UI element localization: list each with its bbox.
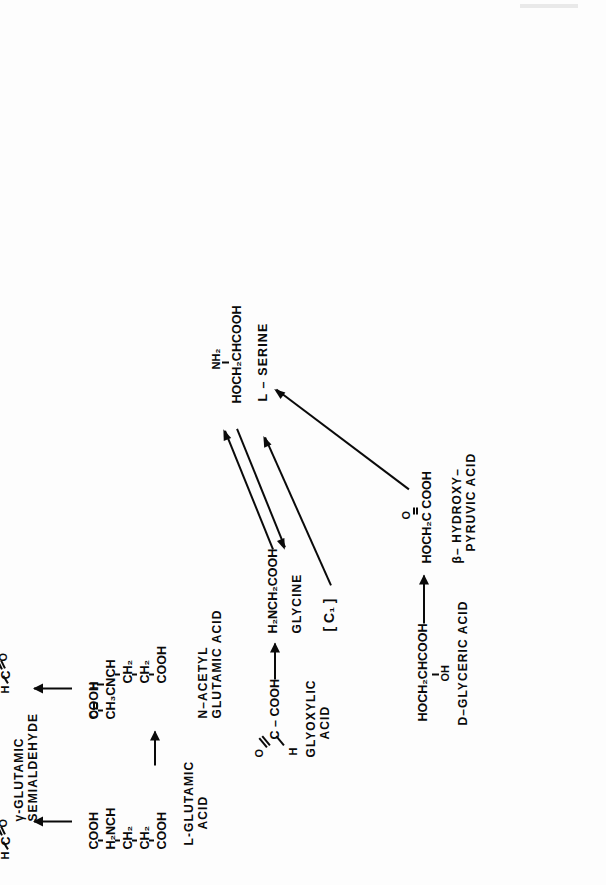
hydroxypyruvate-co-bond-b <box>416 507 418 514</box>
hydroxypyruvate-co-bond-a <box>413 507 415 514</box>
arrow-serine-to-glycine <box>236 428 286 547</box>
arrow-glu-to-nacetylglu <box>154 731 156 765</box>
label-l-glutamic-acid: L-GLUTAMIC <box>182 760 196 845</box>
label-l-serine: L – SERINE <box>256 322 270 401</box>
label-l-glutamic-acid-line2: ACID <box>196 795 210 829</box>
arrow-glycerate-to-hydroxypyruvate <box>423 575 425 623</box>
glyoxylic-core: C – COOH <box>268 679 283 739</box>
glyceric-hydroxyl: OH <box>438 665 453 682</box>
arrow-hydroxypyruvate-to-serine <box>276 388 410 489</box>
pathway-canvas: COOH H₂NCH CH₂ CH₂ COOH L-GLUTAMIC ACID … <box>0 0 606 885</box>
serine-nh2-bond <box>222 361 229 363</box>
glu-line-4: COOH <box>154 812 171 850</box>
hydroxypyruvate-keto-o: O <box>399 510 414 519</box>
arrow-glyoxylate-to-glycine <box>274 643 276 679</box>
glu-line-2: CH₂ <box>120 825 137 849</box>
label-beta-hydroxypyruvic-acid-line2: PYRUVIC ACID <box>464 452 478 551</box>
nacglu-double-bond-lower <box>96 702 98 709</box>
structure-l-glutamic-acid: COOH H₂NCH CH₂ CH₂ COOH <box>86 807 171 849</box>
glu-line-1: H₂NCH <box>103 807 120 849</box>
label-n-acetyl-glutamic-acid-line2: GLUTAMIC ACID <box>210 609 224 718</box>
gsa-aldehyde-h: H <box>0 851 13 859</box>
label-d-glyceric-acid: D–GLYCERIC ACID <box>456 600 470 725</box>
arrow-nacetylglu-to-nacetylsemialdehyde <box>34 687 72 689</box>
nacglu-line-2: CH₂ <box>120 659 137 683</box>
nacglu-nh-bond <box>97 683 104 685</box>
glu-line-3: CH₂ <box>137 825 154 849</box>
glyoxylic-o: O <box>252 748 267 757</box>
nacglu-double-bond-upper <box>93 702 95 709</box>
label-gamma-glutamic-semialdehyde: γ-GLUTAMIC <box>12 737 26 821</box>
one-carbon-pool-label: [ C₁ ] <box>322 598 337 631</box>
label-beta-hydroxypyruvic-acid: β– HYDROXY– <box>450 468 464 563</box>
nacglu-line-1: CH₃CNCH <box>103 659 120 719</box>
figure-page: COOH H₂NCH CH₂ CH₂ COOH L-GLUTAMIC ACID … <box>0 0 606 885</box>
glyceric-formula: HOCH₂CHCOOH <box>416 623 431 721</box>
scan-artifact <box>520 4 578 8</box>
nacglu-line-4: COOH <box>154 646 171 684</box>
label-glyoxylic-acid-line2: ACID <box>318 705 332 739</box>
label-gamma-glutamic-semialdehyde-line2: SEMIALDEHYDE <box>26 712 40 821</box>
label-glyoxylic-acid: GLYOXYLIC <box>304 679 318 757</box>
nacsa-aldehyde-h: H <box>0 685 13 693</box>
glu-line-0: COOH <box>86 812 103 850</box>
serine-formula: HOCH₂CHCOOH <box>230 305 245 403</box>
nacglu-carbonyl-o: O <box>87 709 102 718</box>
structure-glycine: H₂NCH₂COOH <box>266 548 281 633</box>
hydroxypyruvate-formula: HOCH₂C COOH <box>420 471 435 563</box>
nacglu-line-3: CH₂ <box>137 659 154 683</box>
label-n-acetyl-glutamic-acid: N–ACETYL <box>196 646 210 718</box>
serine-amino: NH₂ <box>209 348 224 369</box>
label-glycine: GLYCINE <box>290 573 304 633</box>
arrow-glycine-to-serine <box>224 430 274 549</box>
glyoxylic-h: H <box>286 747 301 755</box>
